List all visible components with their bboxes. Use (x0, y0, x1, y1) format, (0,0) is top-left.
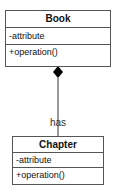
class-operation: +operation() (6, 45, 110, 59)
class-operation: +operation() (13, 168, 103, 182)
class-name: Book (6, 11, 110, 28)
class-attribute: -attribute (6, 28, 110, 45)
class-attribute: -attribute (13, 153, 103, 168)
filled-diamond-icon (53, 66, 63, 78)
relationship-label: has (50, 117, 66, 129)
class-box-chapter[interactable]: Chapter -attribute +operation() (12, 136, 104, 185)
class-name: Chapter (13, 137, 103, 153)
class-box-book[interactable]: Book -attribute +operation() (5, 10, 111, 67)
